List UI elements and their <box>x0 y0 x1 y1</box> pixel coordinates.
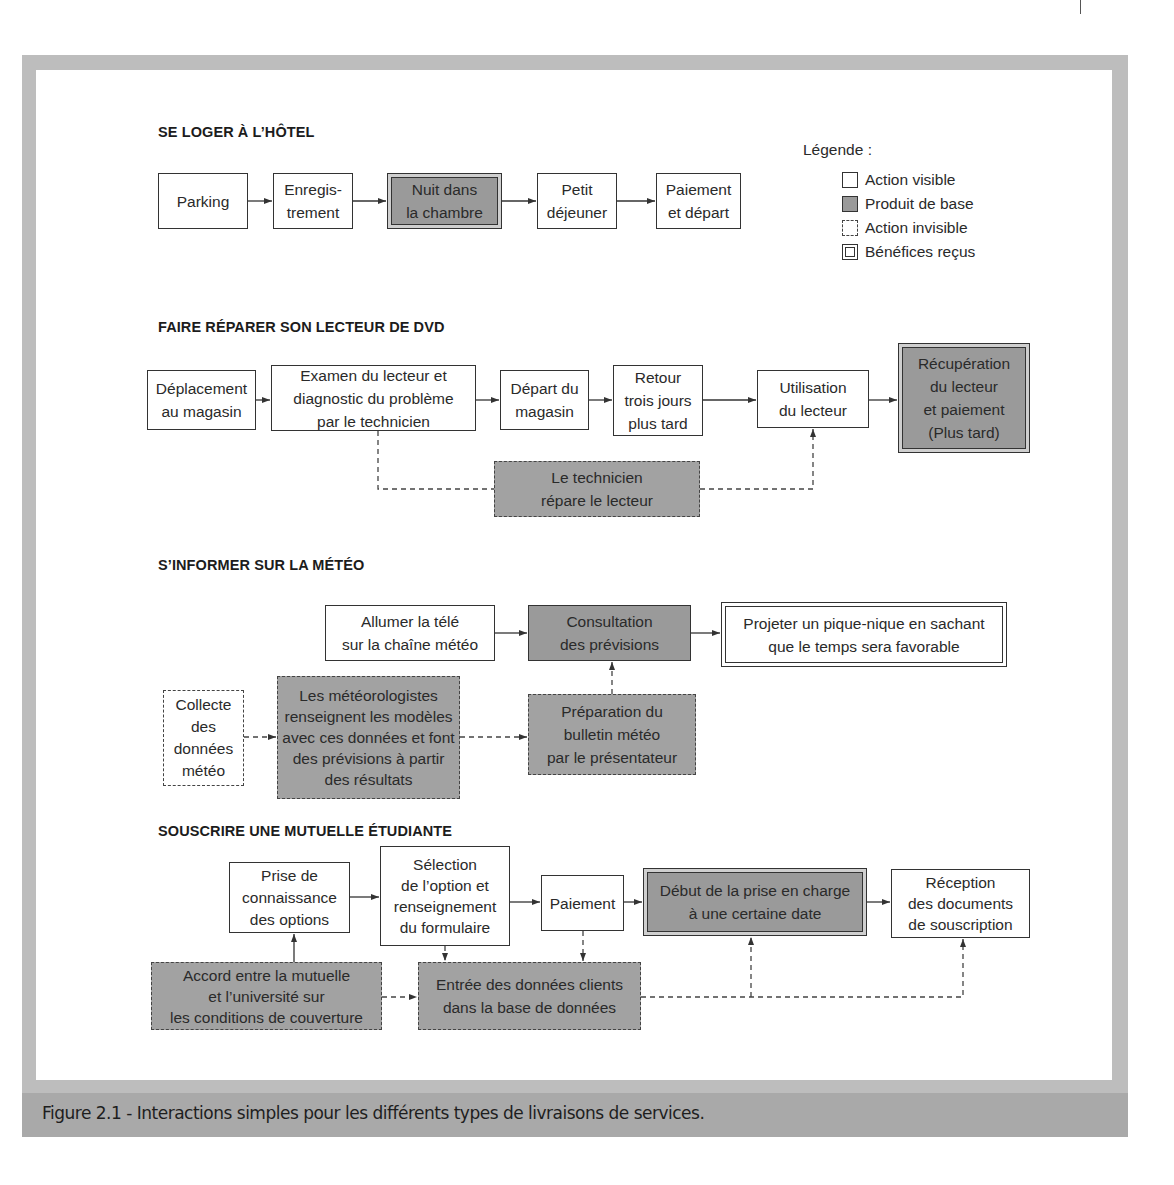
box-deplacement: Déplacement au magasin <box>147 370 256 430</box>
box-reception-documents: Réception des documents de souscription <box>891 869 1030 938</box>
visible-action-swatch-icon <box>842 172 858 188</box>
box-parking: Parking <box>158 173 248 229</box>
legend-item-benefit: Bénéfices reçus <box>842 243 975 261</box>
box-entree-donnees: Entrée des données clients dans la base … <box>418 962 641 1030</box>
box-debut-prise-en-charge: Début de la prise en charge à une certai… <box>643 868 867 936</box>
legend-label: Produit de base <box>865 195 974 213</box>
section-title-meteo: S’INFORMER SUR LA MÉTÉO <box>158 557 364 573</box>
page-margin-mark <box>1080 0 1081 14</box>
benefit-swatch-icon <box>842 244 858 260</box>
box-preparation-bulletin: Préparation du bulletin météo par le pré… <box>528 694 696 775</box>
core-product-swatch-icon <box>842 196 858 212</box>
box-prise-connaissance: Prise de connaissance des options <box>229 862 350 933</box>
box-technicien-repare: Le technicien répare le lecteur <box>494 461 700 517</box>
box-utilisation: Utilisation du lecteur <box>757 370 869 428</box>
box-consultation: Consultation des prévisions <box>528 605 691 661</box>
box-enregistrement: Enregis- trement <box>273 173 353 229</box>
box-examen: Examen du lecteur et diagnostic du probl… <box>271 365 476 431</box>
box-selection: Sélection de l’option et renseignement d… <box>380 846 510 946</box>
section-title-hotel: SE LOGER À L’HÔTEL <box>158 124 314 140</box>
section-title-mutuelle: SOUSCRIRE UNE MUTUELLE ÉTUDIANTE <box>158 823 452 839</box>
box-nuit-chambre: Nuit dans la chambre <box>387 173 502 229</box>
legend-label: Action visible <box>865 171 955 189</box>
box-collecte: Collecte des données météo <box>163 690 244 786</box>
legend-title: Légende : <box>803 141 872 159</box>
figure-caption: Figure 2.1 - Interactions simples pour l… <box>42 1103 704 1123</box>
box-paiement-depart: Paiement et départ <box>656 173 741 229</box>
box-recuperation: Récupération du lecteur et paiement (Plu… <box>898 343 1030 453</box>
section-title-dvd: FAIRE RÉPARER SON LECTEUR DE DVD <box>158 319 445 335</box>
legend-label: Bénéfices reçus <box>865 243 975 261</box>
legend-item-invisible: Action invisible <box>842 219 968 237</box>
legend-item-core: Produit de base <box>842 195 974 213</box>
box-accord-mutuelle: Accord entre la mutuelle et l’université… <box>151 962 382 1030</box>
box-retour: Retour trois jours plus tard <box>613 365 703 436</box>
box-meteorologistes: Les météorologistes renseignent les modè… <box>277 676 460 799</box>
box-allumer-tele: Allumer la télé sur la chaîne météo <box>325 605 495 661</box>
legend-item-visible: Action visible <box>842 171 955 189</box>
box-depart-magasin: Départ du magasin <box>500 370 589 430</box>
box-projeter-pique-nique: Projeter un pique-nique en sachant que l… <box>721 602 1007 667</box>
legend-label: Action invisible <box>865 219 968 237</box>
box-paiement: Paiement <box>541 875 624 931</box>
box-petit-dejeuner: Petit déjeuner <box>537 173 617 229</box>
invisible-action-swatch-icon <box>842 220 858 236</box>
